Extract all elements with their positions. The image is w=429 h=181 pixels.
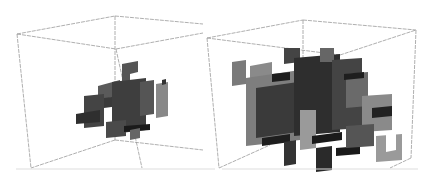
right-render <box>204 0 429 181</box>
left-render <box>0 0 215 181</box>
right-plate-cluster <box>232 48 402 172</box>
right-3d-panel <box>204 0 429 181</box>
left-3d-panel <box>0 0 215 181</box>
left-plate-cluster <box>76 61 168 140</box>
